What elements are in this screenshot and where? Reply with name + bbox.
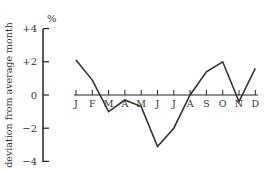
y-unit-label: % [47,13,57,24]
x-tick-label: O [219,98,227,109]
x-tick-label: D [251,98,259,109]
x-tick-label: F [89,98,96,109]
y-tick-label: 0 [31,90,37,101]
y-axis-title: deviation from average month [3,22,14,168]
x-tick-label: J [171,98,176,109]
x-tick-label: A [186,98,194,109]
chart: +4+20−2−4 % deviation from average month… [0,0,271,171]
y-ticks: +4+20−2−4 [22,23,49,167]
y-tick-label: −4 [22,156,37,167]
y-tick-label: +2 [22,56,37,67]
x-tick-label: J [155,98,160,109]
y-tick-label: −2 [22,123,37,134]
x-tick-label: J [73,98,78,109]
y-tick-label: +4 [22,23,37,34]
x-ticks: JFMAMJJASOND [73,90,259,109]
x-tick-label: S [203,98,210,109]
